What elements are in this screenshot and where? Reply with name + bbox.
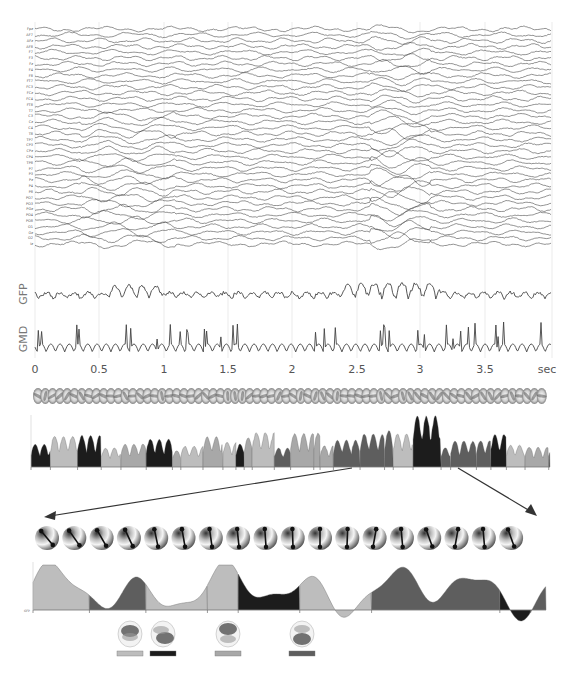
microstate-template-map (290, 621, 314, 647)
microstate-segment (146, 439, 172, 467)
dipole-map (117, 526, 141, 550)
microstate-segment (244, 438, 252, 467)
microstate-segment (291, 434, 314, 467)
microstate-segment (274, 448, 290, 467)
tick-label: 2.5 (348, 363, 366, 376)
right-arrowhead-icon (525, 504, 537, 516)
channel-label: P4 (29, 184, 34, 188)
dipole-map (417, 526, 441, 550)
left-arrowhead-icon (44, 511, 56, 520)
gmd-axis-label: GMD (17, 326, 30, 353)
channel-label: CPz (27, 149, 34, 153)
microstate-segment (491, 435, 507, 468)
channel-label: O1 (28, 225, 33, 229)
channel-label: P8 (29, 190, 33, 194)
eeg-channel-trace (35, 168, 551, 179)
channel-label: F3 (29, 56, 33, 60)
channel-label: AF8 (26, 45, 33, 49)
tick-label: 1 (161, 363, 168, 376)
eeg-channel-trace (35, 100, 551, 108)
zoomed-microstate-segment (531, 587, 546, 613)
channel-label: Fpz (27, 27, 33, 31)
eeg-channel-trace (35, 175, 551, 186)
dipole-map (253, 526, 277, 550)
dipole-map (144, 526, 168, 550)
microstate-segment (172, 451, 180, 467)
time-unit-label: sec (538, 363, 557, 376)
channel-label: T8 (28, 132, 33, 136)
channel-label: C3 (28, 114, 33, 118)
dipole-map (499, 526, 523, 550)
microstate-color-swatch (289, 651, 315, 656)
eeg-channel-trace (35, 150, 551, 161)
microstate-template-map (118, 621, 142, 647)
dipole-topomap-row (35, 526, 523, 550)
eeg-channel-trace (35, 220, 551, 231)
channel-label: F7 (29, 50, 33, 54)
eeg-channel-trace (35, 215, 551, 227)
left-arrow-line (50, 468, 352, 516)
zoomed-microstate-segment (33, 565, 89, 610)
dipole-map (308, 526, 332, 550)
zoomed-microstate-segment (500, 591, 531, 621)
microstate-segment (101, 448, 121, 467)
eeg-channel-trace (35, 54, 551, 62)
eeg-channel-trace (35, 107, 551, 115)
dipole-map (445, 526, 469, 550)
zoomed-microstate-segment (300, 576, 372, 617)
channel-label: TP7 (26, 138, 33, 142)
microstate-segment (223, 443, 236, 468)
channel-label: CP3 (26, 143, 33, 147)
dipole-map (172, 526, 196, 550)
channel-label: FC3 (26, 85, 33, 89)
channel-label: FT7 (27, 79, 33, 83)
tick-label: 1.5 (219, 363, 237, 376)
eeg-channel-trace (35, 210, 551, 221)
microstate-segment (549, 453, 550, 467)
gmd-trace (35, 322, 551, 352)
eeg-channel-trace (35, 197, 551, 210)
dipole-map (390, 526, 414, 550)
eeg-channel-trace (35, 48, 551, 55)
microstate-segment (333, 440, 360, 467)
channel-label: PO4 (26, 213, 34, 217)
zoomed-gfp-area (33, 562, 546, 621)
microstate-segment (506, 445, 525, 467)
microstate-segment (50, 437, 77, 468)
microstate-segment (393, 434, 413, 467)
channel-label: PO8 (26, 219, 33, 223)
zoomed-microstate-segment (372, 567, 500, 610)
eeg-channel-trace (35, 95, 551, 103)
microstate-segment (203, 437, 223, 467)
channel-label: POz (26, 207, 33, 211)
microstate-segment (121, 444, 146, 467)
gfp-axis-label: GFP (17, 283, 30, 305)
microstate-template-map (216, 621, 240, 647)
right-arrow-line (458, 468, 530, 511)
eeg-channel-trace (35, 128, 551, 139)
bottom-gfp-label: GFP (24, 609, 30, 613)
microstate-segment (385, 431, 394, 467)
channel-label: O2 (28, 236, 33, 240)
dipole-map (363, 526, 387, 550)
tick-label: 0.5 (90, 363, 108, 376)
gfp-trace (35, 283, 551, 300)
tick-label: 3.5 (476, 363, 494, 376)
channel-label: FCz (27, 91, 33, 95)
eeg-channel-trace (35, 187, 551, 198)
time-axis: 00.511.522.533.5 (32, 363, 494, 376)
eeg-channel-trace (35, 116, 551, 127)
dipole-map (35, 526, 59, 550)
channel-label: AF7 (26, 33, 33, 37)
eeg-channel-trace (35, 36, 551, 44)
eeg-channel-trace (35, 181, 551, 192)
microstate-template-map (151, 621, 175, 647)
dipole-map (226, 526, 250, 550)
topomap-strip (33, 388, 547, 404)
dipole-map (281, 526, 305, 550)
tick-label: 3 (417, 363, 424, 376)
eeg-channel-trace (35, 89, 551, 97)
microstate-color-swatch (150, 651, 176, 656)
microstate-segment (314, 433, 320, 467)
microstate-segment (413, 416, 441, 467)
